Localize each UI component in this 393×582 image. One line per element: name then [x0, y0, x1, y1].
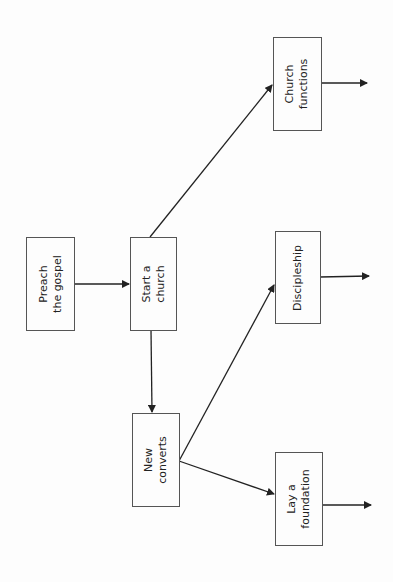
node-label: Discipleship: [291, 245, 305, 311]
node-preach-the-gospel: Preach the gospel: [26, 237, 75, 331]
node-label: New converts: [142, 436, 170, 484]
arrow-converts-to-discipleship: [179, 285, 274, 461]
node-label: Start a church: [139, 265, 167, 302]
arrow-converts-to-foundation: [179, 461, 274, 494]
arrow-discipleship-out: [320, 276, 369, 277]
node-label: Preach the gospel: [37, 255, 65, 313]
arrow-start-to-converts: [151, 330, 152, 412]
node-lay-a-foundation: Lay a foundation: [275, 452, 323, 546]
arrow-start-to-functions: [150, 85, 272, 237]
node-discipleship: Discipleship: [275, 231, 321, 324]
node-label: Church functions: [284, 59, 312, 110]
node-start-a-church: Start a church: [130, 237, 177, 331]
node-label: Lay a foundation: [285, 469, 313, 528]
node-new-converts: New converts: [132, 413, 180, 507]
node-church-functions: Church functions: [273, 37, 322, 131]
